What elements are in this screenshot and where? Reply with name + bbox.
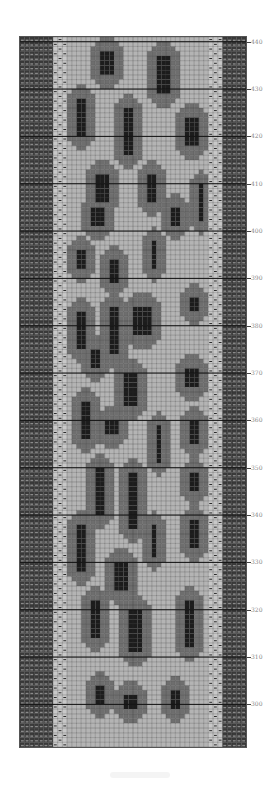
row-label: 380	[251, 322, 262, 329]
row-label: 360	[251, 417, 262, 424]
row-label: 370	[251, 369, 262, 376]
row-label: 420	[251, 133, 262, 140]
footer-smudge	[110, 772, 170, 778]
row-label: 390	[251, 275, 262, 282]
row-label: 440	[251, 38, 262, 45]
row-label: 330	[251, 559, 262, 566]
row-label: 350	[251, 464, 262, 471]
knitting-chart	[19, 36, 247, 748]
row-label: 410	[251, 180, 262, 187]
row-label: 320	[251, 606, 262, 613]
row-label: 340	[251, 511, 262, 518]
row-label: 310	[251, 653, 262, 660]
row-label: 300	[251, 701, 262, 708]
row-label: 430	[251, 85, 262, 92]
row-label: 400	[251, 227, 262, 234]
chart-grid	[20, 37, 246, 747]
